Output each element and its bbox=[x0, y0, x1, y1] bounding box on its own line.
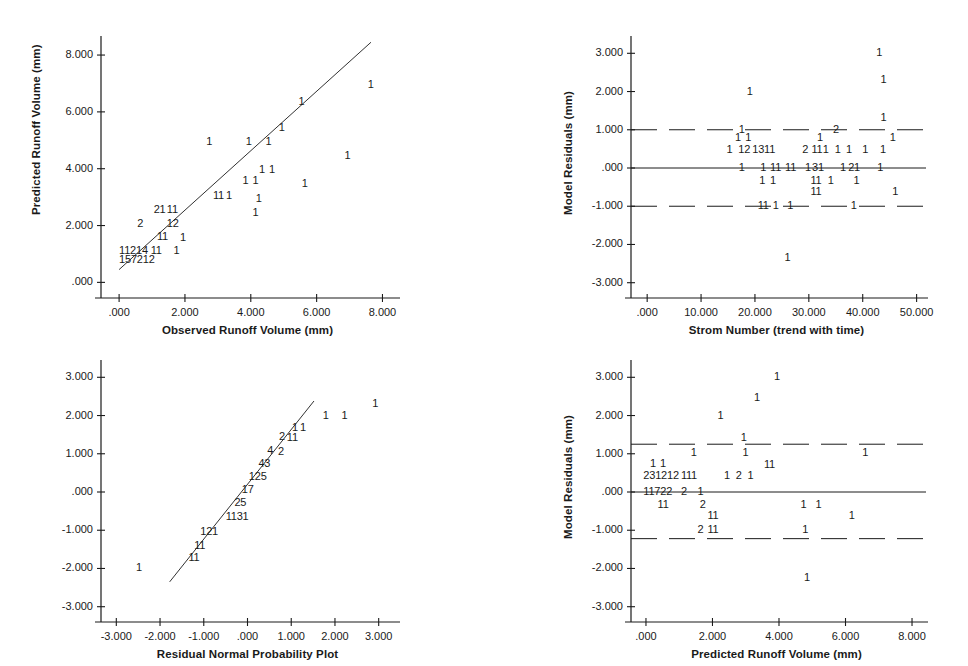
y-axis-title: Model Residuals (mm) bbox=[562, 415, 574, 539]
data-point-marker: 1 bbox=[698, 486, 704, 497]
data-point-marker: 11 bbox=[764, 459, 775, 470]
data-point-marker: 1 bbox=[741, 432, 747, 443]
data-point-marker: 1 bbox=[717, 410, 723, 421]
data-point-marker: 2 bbox=[736, 470, 742, 481]
data-point-marker: 231212 bbox=[643, 470, 679, 481]
figure-canvas: .0002.0004.0006.0008.000.0002.0004.0006.… bbox=[0, 0, 968, 666]
data-point-marker: 1 bbox=[660, 458, 666, 469]
data-point-marker: 1 bbox=[691, 447, 697, 458]
data-point-marker: 2 bbox=[698, 524, 704, 535]
data-point-marker: 111 bbox=[681, 470, 697, 481]
data-point-marker: 1 bbox=[801, 499, 807, 510]
data-point-marker: 2 bbox=[681, 486, 687, 497]
data-point-marker: 1 bbox=[754, 392, 760, 403]
chart-axes-residuals-vs-predicted bbox=[0, 0, 968, 666]
data-point-marker: 11722 bbox=[643, 486, 672, 497]
x-axis-title: Predicted Runoff Volume (mm) bbox=[521, 648, 968, 660]
data-point-marker: 1 bbox=[774, 371, 780, 382]
data-point-marker: 1 bbox=[816, 499, 822, 510]
data-point-marker: 2 bbox=[700, 499, 706, 510]
data-point-marker: 11 bbox=[658, 499, 669, 510]
data-point-marker: 1 bbox=[849, 510, 855, 521]
data-point-marker: 1 bbox=[724, 470, 730, 481]
data-point-marker: 1 bbox=[804, 572, 810, 583]
chart-panel-residuals-vs-predicted: 3.0002.0001.000.000-1.000-2.000-3.000.00… bbox=[0, 0, 968, 666]
data-point-marker: 1 bbox=[862, 447, 868, 458]
data-point-marker: 11 bbox=[707, 510, 718, 521]
data-point-marker: 11 bbox=[707, 524, 718, 535]
data-point-marker: 1 bbox=[650, 458, 656, 469]
data-point-marker: 1 bbox=[747, 470, 753, 481]
data-point-marker: 1 bbox=[802, 524, 808, 535]
data-point-marker: 1 bbox=[742, 447, 748, 458]
